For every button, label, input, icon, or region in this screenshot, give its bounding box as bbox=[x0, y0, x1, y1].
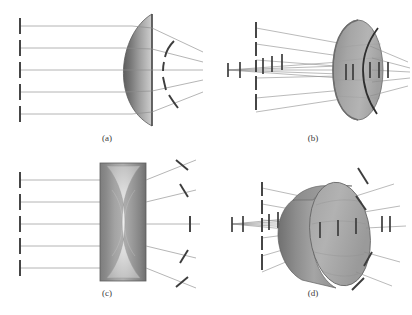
panel-a-incoming-rays bbox=[20, 26, 132, 114]
panel-a bbox=[20, 14, 203, 126]
panel-b-label: (b) bbox=[308, 133, 319, 143]
panel-d bbox=[232, 168, 406, 290]
panel-c-outgoing-wavefronts bbox=[176, 160, 190, 287]
panel-b-axial-wavefront-ticks bbox=[228, 54, 282, 78]
panel-c-incoming-rays bbox=[20, 180, 100, 268]
panel-a-outgoing-wavefronts bbox=[163, 41, 178, 108]
panel-d-label: (d) bbox=[308, 288, 319, 298]
panel-c bbox=[20, 160, 200, 288]
panel-a-label: (a) bbox=[102, 133, 112, 143]
panel-c-label: (c) bbox=[102, 288, 112, 298]
panel-b bbox=[228, 20, 410, 120]
panel-c-diverging-rays bbox=[146, 160, 200, 288]
optics-wavefront-figure: (a) bbox=[0, 0, 412, 315]
panel-b-axial-rays bbox=[228, 62, 340, 78]
